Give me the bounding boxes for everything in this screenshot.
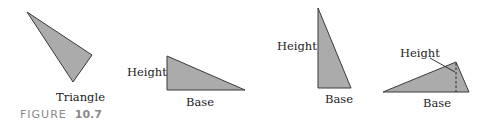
triangle-right-wide-shape [167,56,245,90]
triangle-label: Triangle [56,90,105,104]
height-label-3: Height [277,39,317,53]
height-label-4: Height [400,46,440,60]
caption-number: 10.7 [75,108,102,121]
caption-prefix: FIGURE [20,108,67,121]
figure-canvas: Triangle Height Base Height Base Height … [0,0,493,127]
base-label-3: Base [325,92,353,106]
base-label-2: Base [186,95,214,109]
triangle-general-shape [27,12,92,82]
base-label-4: Base [423,96,451,110]
figure-caption: FIGURE 10.7 [20,104,102,121]
triangle-right-tall-shape [318,8,351,88]
height-label-2: Height [127,65,167,79]
